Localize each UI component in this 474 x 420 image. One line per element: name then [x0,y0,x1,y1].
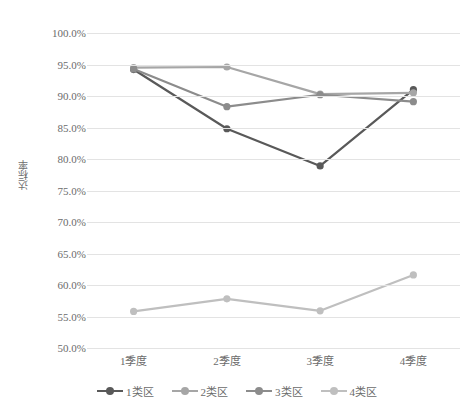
gridline [87,254,460,255]
legend-item-2[interactable]: 2类区 [172,383,229,399]
x-axis-tick-label: 1季度 [94,352,174,368]
series-line [134,69,414,107]
series-3 [130,65,417,110]
chart-legend: 1类区2类区3类区4类区 [0,383,474,399]
legend-swatch-icon [97,386,123,396]
series-2 [130,63,417,97]
legend-item-1[interactable]: 1类区 [97,383,154,399]
y-axis-tick-label: 100.0% [24,27,86,39]
y-axis-tick-label: 60.0% [24,279,86,291]
line-chart: 达标率 100.0%95.0%90.0%85.0%80.0%75.0%70.0%… [0,0,474,420]
data-point-marker [410,98,417,105]
data-point-marker [223,125,230,132]
data-point-marker [223,295,230,302]
legend-label: 4类区 [349,383,378,399]
x-axis-tick-label: 4季度 [373,352,453,368]
gridline [87,128,460,129]
gridline [87,159,460,160]
gridline [87,285,460,286]
legend-label: 2类区 [200,383,229,399]
y-axis-tick-label: 70.0% [24,216,86,228]
data-point-marker [317,162,324,169]
legend-label: 1类区 [125,383,154,399]
series-4 [130,271,417,315]
data-point-marker [317,307,324,314]
series-line [134,70,414,166]
series-line [134,275,414,312]
legend-swatch-icon [246,386,272,396]
legend-item-3[interactable]: 3类区 [246,383,303,399]
legend-swatch-icon [321,386,347,396]
data-point-marker [317,91,324,98]
y-axis-tick-label: 80.0% [24,153,86,165]
plot-area [87,33,460,348]
legend-swatch-icon [172,386,198,396]
y-axis-tick-label: 50.0% [24,342,86,354]
gridline [87,65,460,66]
data-point-marker [130,308,137,315]
y-axis-tick-label: 85.0% [24,122,86,134]
y-axis-tick-label: 65.0% [24,248,86,260]
y-axis-tick-label: 95.0% [24,59,86,71]
y-axis-tick-labels: 100.0%95.0%90.0%85.0%80.0%75.0%70.0%65.0… [22,0,86,420]
gridline [87,348,460,349]
data-point-marker [410,271,417,278]
y-axis-tick-label: 90.0% [24,90,86,102]
x-axis-tick-label: 2季度 [187,352,267,368]
gridline [87,33,460,34]
y-axis-tick-label: 75.0% [24,185,86,197]
gridline [87,317,460,318]
gridline [87,191,460,192]
series-line [134,67,414,94]
gridline [87,222,460,223]
y-axis-tick-label: 55.0% [24,311,86,323]
data-point-marker [130,65,137,72]
legend-label: 3类区 [274,383,303,399]
x-axis-tick-labels: 1季度2季度3季度4季度 [87,352,460,374]
x-axis-tick-label: 3季度 [280,352,360,368]
gridline [87,96,460,97]
data-point-marker [223,103,230,110]
legend-item-4[interactable]: 4类区 [321,383,378,399]
